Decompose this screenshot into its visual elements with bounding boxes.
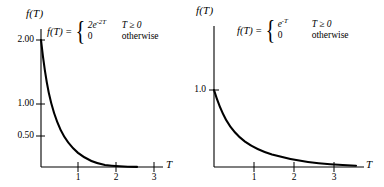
x-tick-label-3: 3 <box>147 172 161 182</box>
formula-case-row-2: 0 otherwise <box>278 30 349 41</box>
chart-panel-left: f(T) T 2.00 1.00 0.50 1 2 3 f(T) = { 2e-… <box>0 0 192 187</box>
formula-other-condition: otherwise <box>122 31 159 42</box>
formula-equals-sign: = <box>66 26 72 37</box>
formula-case-expression: e-T <box>278 19 312 30</box>
formula-other-expression: 0 <box>88 31 122 42</box>
y-axis-label: f(T) <box>26 7 43 19</box>
formula-other-condition: otherwise <box>312 30 349 41</box>
x-tick-label-2: 2 <box>109 172 123 182</box>
curve-exp-negt <box>214 90 356 166</box>
x-axis-label: T <box>366 158 372 170</box>
formula-equals-sign: = <box>256 25 262 36</box>
y-tick-label-0-5: 0.50 <box>8 130 34 140</box>
y-tick-label-2: 2.00 <box>8 34 34 44</box>
formula-case-condition: T ≥ 0 <box>122 20 142 31</box>
formula-case-exponent: -2T <box>97 18 106 25</box>
piecewise-formula: f(T) = { 2e-2T T ≥ 0 0 otherwise <box>47 20 159 42</box>
formula-case-expression: 2e-2T <box>88 20 122 31</box>
x-tick-label-2: 2 <box>287 172 301 182</box>
curve-2exp-neg2t <box>41 40 137 167</box>
x-tick-label-3: 3 <box>327 172 341 182</box>
formula-case-row-1: e-T T ≥ 0 <box>278 19 349 30</box>
y-tick-label-1: 1.00 <box>8 98 34 108</box>
x-axis-label: T <box>166 158 172 170</box>
formula-case-condition: T ≥ 0 <box>312 19 332 30</box>
formula-function-name: f(T) <box>47 26 63 37</box>
formula-cases: 2e-2T T ≥ 0 0 otherwise <box>88 20 159 42</box>
formula-case-exponent: -T <box>282 17 288 24</box>
x-tick-label-1: 1 <box>247 172 261 182</box>
formula-function-name: f(T) <box>237 25 253 36</box>
y-axis-label: f(T) <box>196 4 213 16</box>
x-tick-label-1: 1 <box>71 172 85 182</box>
y-tick-label-1: 1.0 <box>186 84 206 94</box>
formula-case-row-1: 2e-2T T ≥ 0 <box>88 20 159 31</box>
formula-cases: e-T T ≥ 0 0 otherwise <box>278 19 349 41</box>
formula-case-base: 2e <box>88 20 97 30</box>
chart-panel-right: f(T) T 1.0 1 2 3 f(T) = { e-T T ≥ 0 0 ot… <box>192 0 384 187</box>
exponential-density-figure: f(T) T 2.00 1.00 0.50 1 2 3 f(T) = { 2e-… <box>0 0 384 187</box>
formula-other-expression: 0 <box>278 30 312 41</box>
piecewise-formula: f(T) = { e-T T ≥ 0 0 otherwise <box>237 19 349 41</box>
formula-case-row-2: 0 otherwise <box>88 31 159 42</box>
